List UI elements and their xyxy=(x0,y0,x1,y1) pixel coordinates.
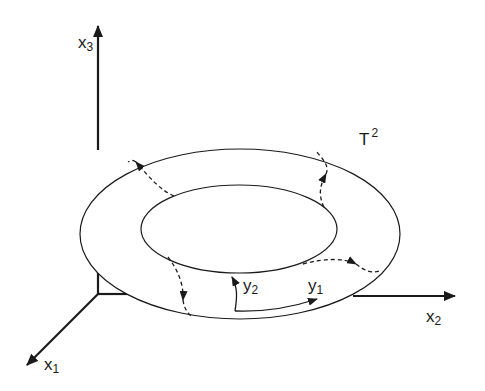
x3-axis-label: x3 xyxy=(78,34,93,51)
diagram-canvas xyxy=(0,0,485,391)
torus-label: T2 xyxy=(359,131,378,148)
x1-axis xyxy=(27,294,98,365)
y1-label: y1 xyxy=(308,277,323,294)
torus-surface xyxy=(80,149,400,319)
x1-axis-label: x1 xyxy=(44,356,59,373)
x2-axis-label: x2 xyxy=(426,308,441,325)
torus-diagram: x3 x2 x1 T2 y1 y2 xyxy=(0,0,485,391)
y2-label: y2 xyxy=(243,277,258,294)
